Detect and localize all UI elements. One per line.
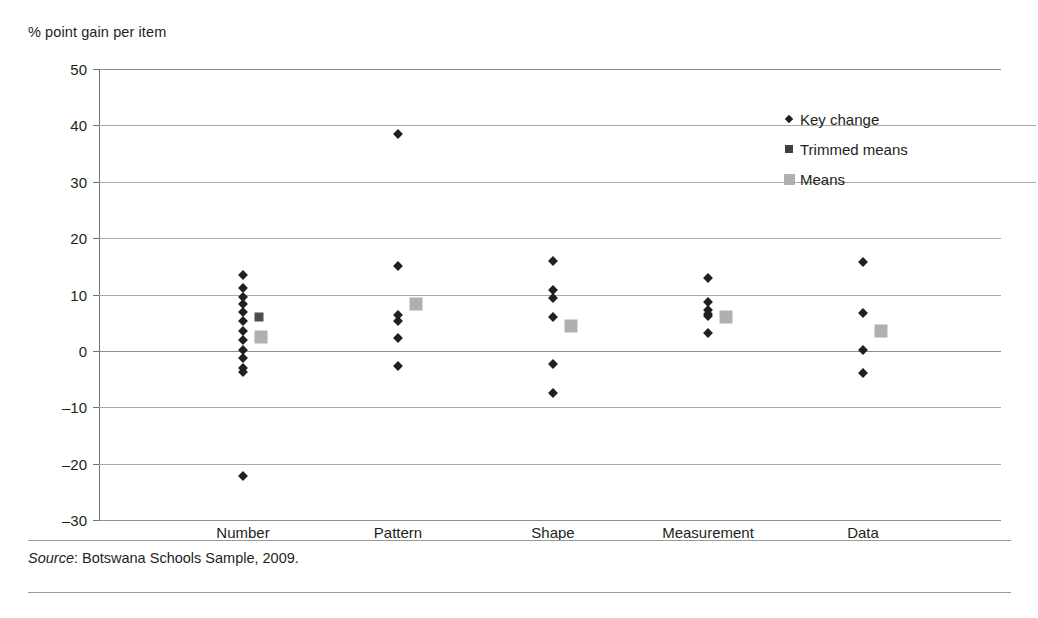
source-note: Source: Botswana Schools Sample, 2009. <box>28 550 299 566</box>
diamond-icon <box>778 116 800 122</box>
data-point-diamond <box>858 257 868 267</box>
x-tick-label: Measurement <box>662 524 754 541</box>
x-tick-label: Shape <box>531 524 574 541</box>
data-point-diamond <box>858 368 868 378</box>
data-point-diamond <box>548 388 558 398</box>
data-point-diamond <box>858 308 868 318</box>
y-tick-label: 30 <box>27 173 87 190</box>
gridline <box>99 238 1001 239</box>
legend-item-means: Means <box>778 164 953 194</box>
y-tick-mark <box>93 407 99 408</box>
y-tick-mark <box>93 351 99 352</box>
chart-legend: Key change Trimmed means Means <box>778 104 953 194</box>
data-point-diamond <box>238 316 248 326</box>
data-point-diamond <box>393 333 403 343</box>
data-point-square-gray <box>565 320 578 333</box>
data-point-square-gray <box>410 297 423 310</box>
divider-top <box>28 540 1011 541</box>
legend-item-key-change: Key change <box>778 104 953 134</box>
data-point-diamond <box>238 353 248 363</box>
y-tick-mark <box>93 125 99 126</box>
y-tick-mark <box>93 69 99 70</box>
data-point-square-gray <box>255 330 268 343</box>
gridline <box>99 69 1001 70</box>
data-point-diamond <box>858 345 868 355</box>
y-tick-mark <box>93 238 99 239</box>
y-tick-label: 10 <box>27 286 87 303</box>
data-point-diamond <box>238 270 248 280</box>
x-tick-label: Pattern <box>374 524 422 541</box>
square-gray-icon <box>778 174 800 185</box>
y-tick-label: –30 <box>27 512 87 529</box>
square-dark-icon <box>778 145 800 153</box>
data-point-square-dark <box>255 312 264 321</box>
data-point-diamond <box>393 129 403 139</box>
gridline <box>99 520 1001 521</box>
x-tick-label: Number <box>216 524 269 541</box>
gridline <box>99 464 1001 465</box>
y-tick-mark <box>93 464 99 465</box>
data-point-diamond <box>548 359 558 369</box>
legend-label: Key change <box>800 111 879 128</box>
y-tick-mark <box>93 295 99 296</box>
y-tick-label: 40 <box>27 117 87 134</box>
x-tick-label: Data <box>847 524 879 541</box>
y-axis-title: % point gain per item <box>28 24 166 40</box>
legend-label: Means <box>800 171 845 188</box>
data-point-diamond <box>548 256 558 266</box>
data-point-diamond <box>238 326 248 336</box>
chart-figure: % point gain per item 50403020100–10–20–… <box>0 0 1038 618</box>
data-point-diamond <box>703 328 713 338</box>
y-tick-mark <box>93 520 99 521</box>
data-point-diamond <box>393 261 403 271</box>
data-point-diamond <box>703 273 713 283</box>
gridline <box>99 407 1001 408</box>
data-point-square-gray <box>875 324 888 337</box>
data-point-diamond <box>393 316 403 326</box>
divider-bottom <box>28 592 1011 593</box>
source-label: Source <box>28 550 74 566</box>
source-text: : Botswana Schools Sample, 2009. <box>74 550 299 566</box>
data-point-diamond <box>548 312 558 322</box>
data-point-diamond <box>393 361 403 371</box>
y-tick-label: 50 <box>27 61 87 78</box>
legend-label: Trimmed means <box>800 141 908 158</box>
data-point-square-gray <box>720 311 733 324</box>
data-point-diamond <box>238 471 248 481</box>
y-tick-label: 20 <box>27 230 87 247</box>
y-tick-label: –20 <box>27 455 87 472</box>
y-tick-label: –10 <box>27 399 87 416</box>
data-point-diamond <box>238 335 248 345</box>
y-tick-label: 0 <box>27 342 87 359</box>
legend-item-trimmed-means: Trimmed means <box>778 134 953 164</box>
y-tick-mark <box>93 182 99 183</box>
